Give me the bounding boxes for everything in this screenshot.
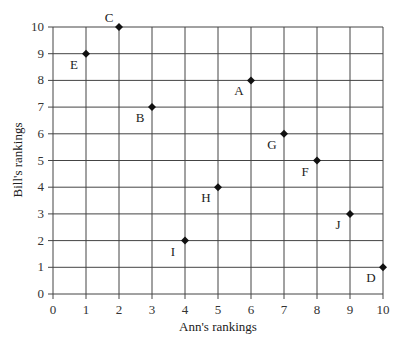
data-points: ABCDEFGHIJ (70, 10, 387, 285)
x-tick-label: 5 (215, 302, 222, 317)
point-label: F (301, 164, 308, 179)
y-tick-label: 8 (38, 72, 45, 87)
data-point-marker (148, 103, 156, 111)
x-tick-label: 2 (116, 302, 123, 317)
y-tick-label: 3 (38, 206, 45, 221)
x-tick-label: 4 (182, 302, 189, 317)
data-point-marker (313, 157, 321, 165)
data-point-marker (247, 76, 255, 84)
point-label: D (366, 270, 375, 285)
data-point-marker (181, 237, 189, 245)
y-axis-title: Bill's rankings (10, 123, 25, 198)
data-point-marker (379, 263, 387, 271)
x-tick-label: 3 (149, 302, 156, 317)
point-label: B (136, 110, 145, 125)
point-label: G (267, 137, 276, 152)
x-tick-label: 8 (314, 302, 321, 317)
scatter-chart: 012345678910012345678910 ABCDEFGHIJ Ann'… (0, 0, 403, 347)
data-point-marker (214, 183, 222, 191)
x-axis-title: Ann's rankings (179, 319, 257, 334)
x-tick-label: 9 (347, 302, 354, 317)
point-label: C (105, 10, 114, 25)
x-tick-label: 0 (50, 302, 57, 317)
point-label: J (335, 217, 340, 232)
x-tick-label: 1 (83, 302, 90, 317)
point-label: I (171, 244, 175, 259)
y-tick-label: 9 (38, 46, 45, 61)
y-tick-label: 1 (38, 259, 45, 274)
x-tick-label: 6 (248, 302, 255, 317)
x-tick-label: 10 (377, 302, 390, 317)
y-tick-label: 4 (38, 179, 45, 194)
y-tick-label: 0 (38, 286, 45, 301)
y-tick-label: 7 (38, 99, 45, 114)
tick-labels: 012345678910012345678910 (31, 19, 390, 317)
y-tick-label: 2 (38, 233, 45, 248)
y-tick-label: 10 (31, 19, 44, 34)
grid-lines (48, 27, 383, 299)
point-label: E (70, 57, 78, 72)
data-point-marker (346, 210, 354, 218)
data-point-marker (82, 50, 90, 58)
data-point-marker (115, 23, 123, 31)
x-tick-label: 7 (281, 302, 288, 317)
y-tick-label: 6 (38, 126, 45, 141)
point-label: H (201, 190, 210, 205)
y-tick-label: 5 (38, 153, 45, 168)
data-point-marker (280, 130, 288, 138)
point-label: A (234, 83, 244, 98)
